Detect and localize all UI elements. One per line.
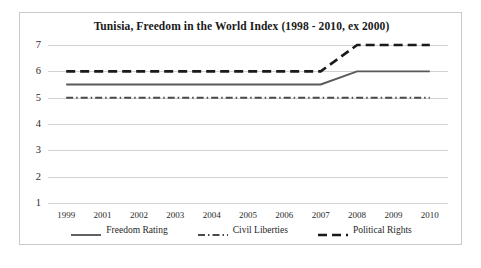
legend-label: Political Rights bbox=[353, 226, 412, 236]
x-axis-tick-label: 2010 bbox=[421, 211, 439, 220]
chart-container: Tunisia, Freedom in the World Index (199… bbox=[19, 12, 462, 245]
x-axis-tick-label: 2001 bbox=[94, 211, 112, 220]
x-axis-tick-label: 2003 bbox=[166, 211, 184, 220]
y-axis-tick-label: 5 bbox=[36, 92, 41, 103]
x-axis-tick-label: 2005 bbox=[239, 211, 257, 220]
y-axis-tick-label: 6 bbox=[36, 66, 41, 77]
legend-swatch-dash-dot bbox=[198, 226, 228, 236]
legend-entry[interactable]: Civil Liberties bbox=[198, 226, 288, 236]
chart-title: Tunisia, Freedom in the World Index (199… bbox=[20, 20, 463, 32]
x-axis-tick-label: 1999 bbox=[57, 211, 75, 220]
y-axis-tick-label: 1 bbox=[36, 198, 41, 209]
legend-entry[interactable]: Freedom Rating bbox=[71, 226, 167, 236]
y-axis-tick-label: 7 bbox=[36, 40, 41, 51]
legend-swatch-dashed bbox=[318, 226, 348, 236]
legend-entry[interactable]: Political Rights bbox=[318, 226, 412, 236]
x-axis-tick-label: 2009 bbox=[384, 211, 402, 220]
gridline bbox=[48, 203, 448, 204]
series-line-freedom-rating bbox=[66, 71, 430, 84]
chart-legend: Freedom RatingCivil LibertiesPolitical R… bbox=[20, 226, 463, 236]
y-axis-tick-label: 2 bbox=[36, 171, 41, 182]
y-axis-tick-label: 3 bbox=[36, 145, 41, 156]
x-axis-tick-label: 2004 bbox=[203, 211, 221, 220]
legend-label: Civil Liberties bbox=[233, 226, 288, 236]
x-axis-tick-label: 2007 bbox=[312, 211, 330, 220]
x-axis-tick-label: 2008 bbox=[348, 211, 366, 220]
series-line-political-rights bbox=[66, 45, 430, 71]
x-axis-tick-label: 2002 bbox=[130, 211, 148, 220]
x-axis-tick-label: 2006 bbox=[275, 211, 293, 220]
legend-swatch-solid bbox=[71, 226, 101, 236]
series-lines bbox=[48, 45, 448, 203]
y-axis-tick-label: 4 bbox=[36, 119, 41, 130]
legend-label: Freedom Rating bbox=[106, 226, 167, 236]
plot-area: 1234567 19992001200220032004200520062007… bbox=[48, 45, 448, 203]
